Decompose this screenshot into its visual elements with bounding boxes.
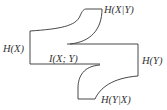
information-diagram: H(X) H(X|Y) I(X; Y) H(Y) H(Y|X) bbox=[0, 0, 167, 110]
mutual-info-label: I(X; Y) bbox=[48, 53, 78, 65]
hy-given-x-label: H(Y|X) bbox=[100, 94, 131, 106]
hy-label: H(Y) bbox=[141, 55, 163, 67]
hx-given-y-label: H(X|Y) bbox=[103, 4, 134, 16]
hx-label: H(X) bbox=[2, 43, 24, 55]
